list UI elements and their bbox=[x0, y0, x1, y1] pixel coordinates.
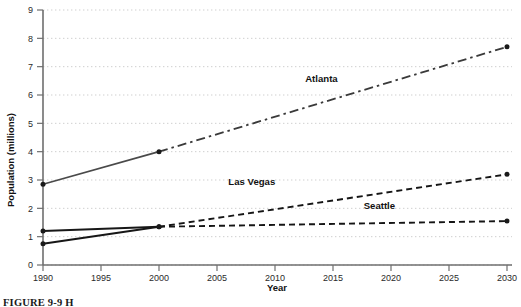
data-point-atlanta-1990 bbox=[41, 182, 46, 187]
x-tick-label-1995: 1995 bbox=[91, 273, 111, 283]
series-lines-group bbox=[43, 47, 507, 244]
data-point-atlanta-2030 bbox=[505, 44, 510, 49]
data-point-las-vegas-1990 bbox=[41, 241, 46, 246]
series-line-projected-atlanta bbox=[159, 47, 507, 152]
x-tick-label-2030: 2030 bbox=[497, 273, 517, 283]
y-tick-label-4: 4 bbox=[28, 147, 33, 157]
population-projection-line-chart: 0123456789 19901995200020052010201520202… bbox=[0, 0, 521, 307]
y-tick-label-6: 6 bbox=[28, 90, 33, 100]
series-inline-labels-group: AtlantaLas VegasSeattle bbox=[228, 73, 395, 211]
data-point-atlanta-2000 bbox=[157, 149, 162, 154]
series-label-atlanta: Atlanta bbox=[305, 73, 338, 84]
series-markers-group bbox=[41, 44, 510, 246]
series-label-seattle: Seattle bbox=[364, 200, 395, 211]
data-point-seattle-2030 bbox=[505, 219, 510, 224]
x-tick-label-1990: 1990 bbox=[33, 273, 53, 283]
figure-caption: FIGURE 9-9 H bbox=[3, 297, 74, 307]
series-line-projected-seattle bbox=[159, 221, 507, 227]
y-tick-label-3: 3 bbox=[28, 175, 33, 185]
y-tick-label-2: 2 bbox=[28, 204, 33, 214]
figure-caption-text: H bbox=[65, 297, 73, 307]
x-tick-label-2015: 2015 bbox=[323, 273, 343, 283]
x-tick-label-2005: 2005 bbox=[207, 273, 227, 283]
y-tick-label-9: 9 bbox=[28, 5, 33, 15]
data-point-las-vegas-2030 bbox=[505, 172, 510, 177]
y-tick-label-8: 8 bbox=[28, 34, 33, 44]
figure-container: 0123456789 19901995200020052010201520202… bbox=[0, 0, 521, 307]
gridlines-group bbox=[43, 10, 512, 265]
x-tick-label-2000: 2000 bbox=[149, 273, 169, 283]
x-axis-title: Year bbox=[267, 282, 287, 293]
y-tick-label-1: 1 bbox=[28, 232, 33, 242]
figure-number: FIGURE 9-9 bbox=[3, 297, 62, 307]
y-tick-label-7: 7 bbox=[28, 62, 33, 72]
x-axis-ticks-group: 199019952000200520102015202020252030 bbox=[33, 265, 517, 283]
y-tick-label-5: 5 bbox=[28, 119, 33, 129]
series-line-historical-atlanta bbox=[43, 152, 159, 185]
x-tick-label-2020: 2020 bbox=[381, 273, 401, 283]
series-label-las-vegas: Las Vegas bbox=[228, 176, 275, 187]
y-tick-label-0: 0 bbox=[28, 260, 33, 270]
series-line-projected-las-vegas bbox=[159, 174, 507, 226]
data-point-seattle-2000 bbox=[157, 224, 162, 229]
y-axis-title: Population (millions) bbox=[5, 113, 16, 207]
data-point-seattle-1990 bbox=[41, 229, 46, 234]
x-tick-label-2025: 2025 bbox=[439, 273, 459, 283]
